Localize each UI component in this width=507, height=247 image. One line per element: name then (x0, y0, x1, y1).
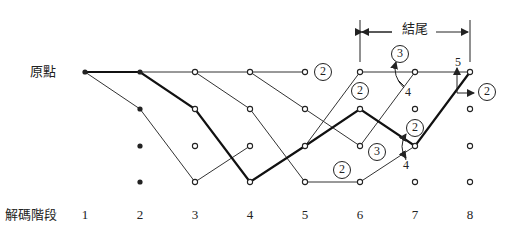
branch-metric-label: 5 (455, 56, 461, 68)
trellis-node-open (302, 106, 307, 111)
trellis-node-open (247, 143, 252, 148)
ending-label: 結尾 (398, 22, 432, 35)
trellis-node-open (247, 106, 252, 111)
trellis-branch (360, 72, 415, 146)
trellis-node-open (412, 179, 417, 184)
trellis-node-open (247, 69, 252, 74)
trellis-node-open (467, 143, 472, 148)
trellis-node-open (192, 179, 197, 184)
stage-label-8: 8 (467, 208, 474, 221)
trellis-node-solid (137, 69, 142, 74)
trellis-branch (85, 72, 140, 109)
trellis-node-open (467, 69, 472, 74)
trellis-node-open (357, 69, 362, 74)
trellis-node-open (467, 179, 472, 184)
decoding-stage-axis-title: 解碼階段 (5, 208, 57, 221)
path-metric-circle: 2 (314, 63, 332, 81)
metric-arrows (395, 62, 474, 160)
path-metric-circle: 2 (351, 82, 369, 100)
trellis-node-open (357, 143, 362, 148)
trellis-branch (250, 109, 305, 182)
path-metric-circle: 3 (391, 45, 409, 63)
stage-label-5: 5 (302, 208, 309, 221)
trellis-node-open (302, 143, 307, 148)
trellis-node-open (467, 106, 472, 111)
origin-label: 原點 (30, 65, 56, 78)
trellis-node-open (302, 179, 307, 184)
trellis-node-open (192, 106, 197, 111)
path-metric-circle: 3 (368, 143, 386, 161)
trellis-node-solid (137, 179, 142, 184)
stage-label-1: 1 (82, 208, 89, 221)
branch-metric-label: 4 (405, 86, 411, 98)
trellis-node-solid (137, 106, 142, 111)
trellis-branch (195, 146, 250, 182)
trellis-branch (305, 72, 360, 146)
stage-label-2: 2 (137, 208, 144, 221)
path-metric-circle: 2 (478, 83, 496, 101)
trellis-node-open (412, 69, 417, 74)
trellis-branch (250, 72, 305, 109)
trellis-node-open (247, 179, 252, 184)
trellis-node-open (412, 143, 417, 148)
stage-label-4: 4 (247, 208, 254, 221)
stage-label-6: 6 (357, 208, 364, 221)
stage-label-3: 3 (192, 208, 199, 221)
trellis-node-solid (82, 69, 87, 74)
trellis-node-solid (137, 143, 142, 148)
path-metric-circle: 2 (333, 161, 351, 179)
trellis-branch (140, 109, 195, 182)
branch-metric-label: 4 (403, 159, 409, 171)
trellis-node-open (412, 106, 417, 111)
trellis-node-open (192, 143, 197, 148)
stage-label-7: 7 (412, 208, 419, 221)
trellis-branch (195, 72, 250, 109)
trellis-node-open (357, 179, 362, 184)
trellis-node-open (302, 69, 307, 74)
path-metric-circle: 2 (406, 119, 424, 137)
trellis-node-open (192, 69, 197, 74)
trellis-node-open (357, 106, 362, 111)
